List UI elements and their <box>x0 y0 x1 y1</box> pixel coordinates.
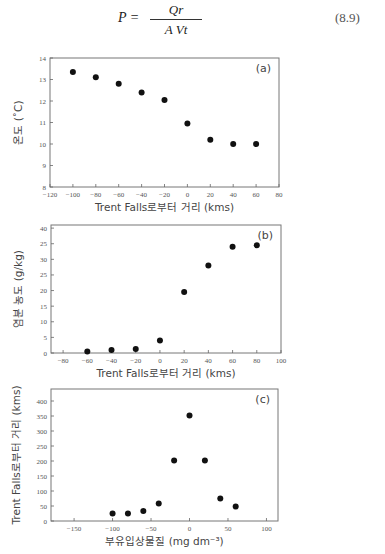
y-tick-label: 14 <box>39 55 47 63</box>
y-tick-label: 11 <box>39 119 46 127</box>
x-tick-label: −50 <box>146 525 157 533</box>
x-tick-label: −20 <box>159 191 170 199</box>
data-point <box>230 244 236 250</box>
y-tick-label: 15 <box>40 303 48 311</box>
data-point <box>116 81 122 87</box>
data-point <box>207 137 213 143</box>
y-tick-label: 300 <box>37 428 48 436</box>
suspended-matter-panel-label: (c) <box>255 393 270 406</box>
y-tick-label: 400 <box>37 398 48 406</box>
y-tick-label: 0 <box>44 518 48 526</box>
x-tick-label: −60 <box>113 191 124 199</box>
y-tick-label: 200 <box>37 458 48 466</box>
data-point <box>157 338 163 344</box>
y-tick-label: 0 <box>44 350 48 358</box>
salinity-y-axis-label: 염분 농도 (g/kg) <box>12 250 24 328</box>
data-point <box>181 289 187 295</box>
y-tick-label: 40 <box>40 225 48 233</box>
x-tick-label: 0 <box>188 525 192 533</box>
data-point <box>253 141 259 147</box>
y-tick-label: 8 <box>43 184 47 192</box>
data-point <box>84 348 90 354</box>
x-tick-label: 50 <box>224 525 232 533</box>
x-tick-label: 60 <box>253 191 261 199</box>
data-point <box>230 141 236 147</box>
y-tick-label: 13 <box>39 76 47 84</box>
data-point <box>110 511 116 517</box>
x-tick-label: 40 <box>230 191 238 199</box>
x-tick-label: −100 <box>105 525 120 533</box>
data-point <box>233 504 239 510</box>
x-tick-label: −100 <box>66 191 81 199</box>
y-tick-label: 30 <box>40 256 48 264</box>
y-tick-label: 12 <box>39 98 47 106</box>
x-tick-label: 20 <box>181 357 189 365</box>
suspended-matter-y-axis-label: Trent Falls로부터 거리 (kms) <box>10 386 22 526</box>
data-point <box>93 74 99 80</box>
x-tick-label: 100 <box>261 525 272 533</box>
x-tick-label: 100 <box>276 357 287 365</box>
x-tick-label: 40 <box>205 357 213 365</box>
x-tick-label: −60 <box>82 357 93 365</box>
data-point <box>156 501 162 507</box>
y-tick-label: 100 <box>37 488 48 496</box>
x-tick-label: −40 <box>106 357 117 365</box>
x-tick-label: 80 <box>253 357 261 365</box>
x-tick-label: −40 <box>136 191 147 199</box>
data-point <box>184 121 190 127</box>
y-tick-label: 10 <box>39 141 47 149</box>
y-tick-label: 25 <box>40 240 48 248</box>
data-point <box>140 508 146 514</box>
temperature-panel-label: (a) <box>256 62 271 75</box>
y-tick-label: 9 <box>43 162 47 170</box>
temperature-plot-frame <box>50 58 279 187</box>
y-tick-label: 350 <box>37 413 48 421</box>
x-tick-label: −20 <box>130 357 141 365</box>
data-point <box>139 89 145 95</box>
data-point <box>254 242 260 248</box>
y-tick-label: 5 <box>44 334 48 342</box>
temperature-y-axis-label: 온도 (˚C) <box>12 100 24 144</box>
data-point <box>125 511 131 517</box>
x-tick-label: 0 <box>158 357 162 365</box>
y-tick-label: 250 <box>37 443 48 451</box>
suspended-matter-plot-frame <box>51 389 278 521</box>
x-tick-label: 60 <box>229 357 237 365</box>
x-tick-label: 0 <box>186 191 190 199</box>
data-point <box>70 69 76 75</box>
y-tick-label: 20 <box>40 287 48 295</box>
salinity-panel-label: (b) <box>257 229 273 242</box>
data-point <box>187 412 193 418</box>
data-point <box>205 263 211 269</box>
data-point <box>217 496 223 502</box>
salinity-x-axis-label: Trent Falls로부터 거리 (kms) <box>96 367 236 379</box>
y-tick-label: 150 <box>37 473 48 481</box>
x-tick-label: −80 <box>90 191 101 199</box>
data-point <box>133 346 139 352</box>
suspended-matter-x-axis-label: 부유입상물질 (mg dm⁻³) <box>105 535 223 547</box>
x-tick-label: −120 <box>43 191 58 199</box>
temperature-x-axis-label: Trent Falls로부터 거리 (kms) <box>94 201 234 213</box>
y-tick-label: 10 <box>40 318 48 326</box>
data-point <box>171 457 177 463</box>
y-tick-label: 50 <box>40 503 48 511</box>
y-tick-label: 25 <box>40 271 48 279</box>
x-tick-label: −80 <box>58 357 69 365</box>
data-point <box>109 347 115 353</box>
data-point <box>162 97 168 103</box>
x-tick-label: −150 <box>67 525 82 533</box>
salinity-plot-frame <box>51 225 281 353</box>
x-tick-label: 20 <box>207 191 215 199</box>
x-tick-label: 80 <box>276 191 284 199</box>
data-point <box>202 457 208 463</box>
chart-temperature: −120−100−80−60−40−2002040608089101112131… <box>0 0 385 554</box>
